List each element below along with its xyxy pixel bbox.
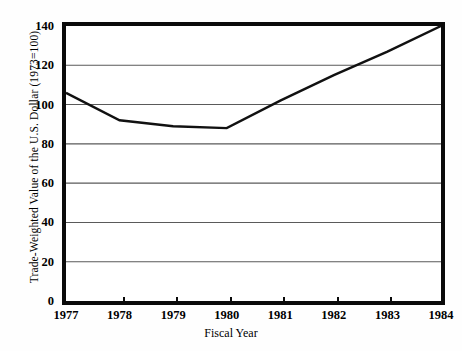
chart-figure: Trade-Weighted Value of the U.S. Dollar … <box>0 0 462 351</box>
y-tick-label: 100 <box>35 97 54 112</box>
y-tick-label: 0 <box>48 294 54 309</box>
x-tick-label: 1980 <box>214 308 239 323</box>
grid-lines <box>66 65 441 261</box>
y-tick-label: 40 <box>42 215 55 230</box>
x-tick-label: 1982 <box>321 308 346 323</box>
x-tick-label: 1977 <box>54 308 79 323</box>
x-tick-label: 1984 <box>429 308 454 323</box>
y-tick-label: 80 <box>42 136 55 151</box>
data-series-line <box>66 26 441 128</box>
x-tick-mark <box>390 297 392 305</box>
x-tick-label: 1981 <box>268 308 293 323</box>
y-tick-label: 140 <box>35 19 54 34</box>
x-tick-mark <box>176 297 178 305</box>
y-axis-tick-labels: 020406080100120140 <box>0 0 60 351</box>
x-tick-mark <box>283 297 285 305</box>
y-tick-label: 60 <box>42 176 55 191</box>
x-tick-mark <box>123 297 125 305</box>
x-tick-mark <box>230 297 232 305</box>
x-tick-label: 1979 <box>161 308 186 323</box>
x-tick-label: 1978 <box>107 308 132 323</box>
x-tick-label: 1983 <box>375 308 400 323</box>
series-polyline <box>66 26 441 128</box>
x-tick-mark <box>337 297 339 305</box>
chart-plot-svg <box>66 26 441 301</box>
y-tick-label: 120 <box>35 58 54 73</box>
plot-area <box>62 22 445 305</box>
x-axis-title: Fiscal Year <box>0 326 462 341</box>
y-tick-label: 20 <box>42 254 55 269</box>
